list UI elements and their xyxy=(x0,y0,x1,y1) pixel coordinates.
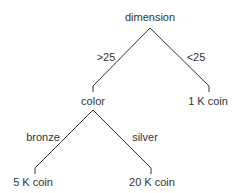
node-dimension: dimension xyxy=(125,11,175,23)
edge-label-silver: silver xyxy=(132,131,158,143)
node-color: color xyxy=(81,95,105,107)
edge-label-lt25: <25 xyxy=(187,51,206,63)
edge-label-gt25: >25 xyxy=(97,51,116,63)
edge-label-bronze: bronze xyxy=(26,131,60,143)
node-1k-coin: 1 K coin xyxy=(188,95,228,107)
node-20k-coin: 20 K coin xyxy=(129,176,175,188)
node-5k-coin: 5 K coin xyxy=(13,176,53,188)
